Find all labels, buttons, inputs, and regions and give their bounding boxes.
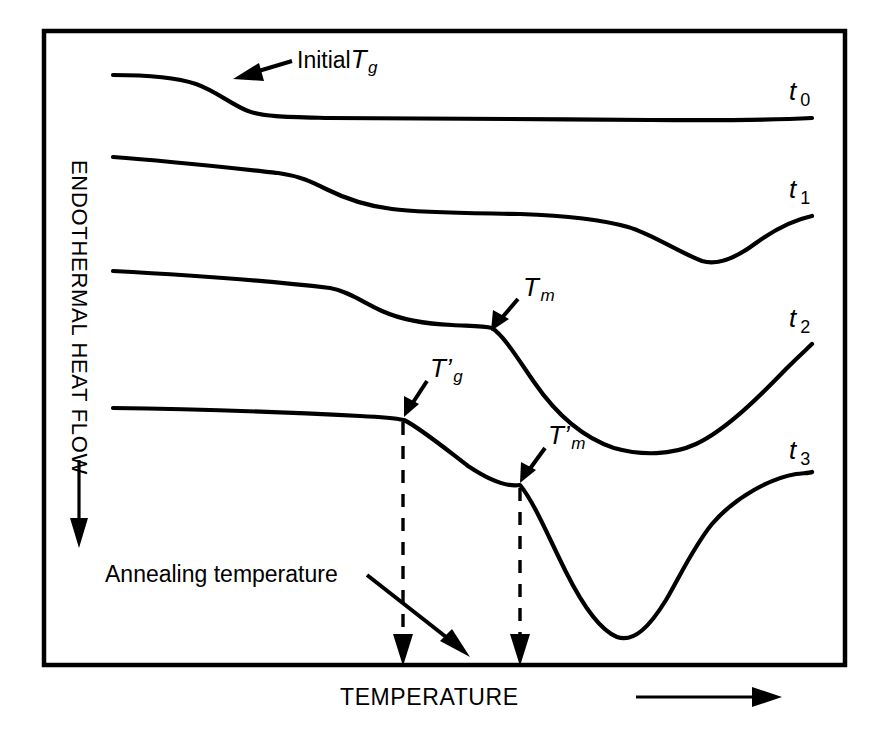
annotation-initial-tg-subscript: g xyxy=(367,58,378,77)
annotation-tm-prime-mark: ’ xyxy=(564,420,570,450)
dsc-thermogram-figure: ENDOTHERMAL HEAT FLOW TEMPERATURE Initia… xyxy=(0,0,879,742)
annotation-tm: Tm xyxy=(523,274,555,304)
curve-t1 xyxy=(113,157,812,262)
curve-label-t0-subscript: 0 xyxy=(796,90,810,110)
annealing-temperature-leader-line xyxy=(367,575,455,644)
tm-prime-leader-line xyxy=(529,448,545,470)
curve-label-t1: t1 xyxy=(789,176,810,207)
dashed-line-right-arrowhead xyxy=(510,634,530,666)
annotation-initial-tg-text: Initial xyxy=(297,47,351,73)
annotation-annealing-temperature: Annealing temperature xyxy=(105,563,338,586)
y-axis-arrow-head xyxy=(70,518,88,548)
annotation-initial-tg-symbol: T xyxy=(351,44,367,74)
y-axis-label-container: ENDOTHERMAL HEAT FLOW xyxy=(62,160,96,490)
y-axis-label: ENDOTHERMAL HEAT FLOW xyxy=(66,160,92,475)
annealing-temperature-arrowhead xyxy=(440,629,470,657)
annotation-tm-prime: T’m xyxy=(548,422,585,452)
annotation-tg-prime-subscript: g xyxy=(452,367,463,386)
dashed-line-left-arrowhead xyxy=(393,634,413,666)
curve-label-t0: t0 xyxy=(789,78,810,109)
curve-t0 xyxy=(113,75,812,120)
annotation-tm-subscript: m xyxy=(539,286,555,305)
annotation-tg-prime-symbol: T xyxy=(430,353,446,383)
curve-label-t2: t2 xyxy=(789,305,810,336)
curve-label-t3-subscript: 3 xyxy=(796,449,810,469)
annotation-tm-symbol: T xyxy=(523,272,539,302)
initial-tg-arrowhead xyxy=(233,63,264,81)
annotation-tg-prime: T’g xyxy=(430,355,463,385)
annotation-tm-prime-symbol: T xyxy=(548,420,564,450)
annotation-tm-prime-subscript: m xyxy=(570,434,586,453)
curve-label-t2-subscript: 2 xyxy=(796,317,810,337)
x-axis-label: TEMPERATURE xyxy=(340,686,519,709)
curve-label-t3: t3 xyxy=(789,437,810,468)
curve-label-t1-subscript: 1 xyxy=(796,188,810,208)
annotation-initial-tg: InitialTg xyxy=(297,46,378,76)
tg-prime-leader-line xyxy=(412,381,427,404)
annotation-tg-prime-mark: ’ xyxy=(446,353,452,383)
x-axis-arrow-head xyxy=(752,687,782,707)
curve-t3 xyxy=(113,408,812,638)
